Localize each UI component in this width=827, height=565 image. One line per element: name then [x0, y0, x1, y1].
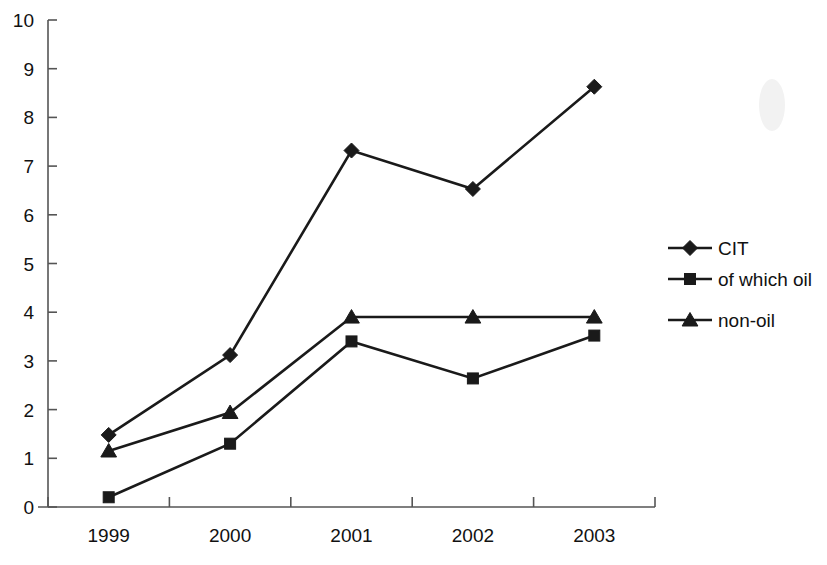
legend-item-non-oil[interactable]: non-oil — [668, 310, 775, 331]
series-of-which-oil — [103, 330, 600, 503]
data-point-marker — [101, 427, 116, 442]
y-axis-ticks: 012345678910 — [13, 10, 57, 518]
y-tick-label: 5 — [23, 254, 34, 275]
legend-label: non-oil — [718, 310, 775, 331]
x-tick-label: 2003 — [573, 525, 615, 546]
legend-item-cit[interactable]: CIT — [668, 238, 749, 259]
axis-group — [38, 20, 655, 507]
y-tick-label: 3 — [23, 351, 34, 372]
y-tick-label: 4 — [23, 302, 34, 323]
data-point-marker — [103, 492, 114, 503]
series-cit — [101, 79, 602, 442]
series-line — [109, 336, 595, 498]
data-point-marker — [225, 438, 236, 449]
x-tick-label: 2002 — [452, 525, 494, 546]
data-point-marker — [223, 348, 238, 363]
data-point-marker — [467, 373, 478, 384]
y-tick-label: 0 — [23, 497, 34, 518]
legend-marker-square-icon — [685, 274, 696, 285]
data-point-marker — [344, 143, 359, 158]
y-tick-label: 10 — [13, 10, 34, 31]
y-tick-label: 2 — [23, 400, 34, 421]
chart-legend: CITof which oilnon-oil — [668, 238, 812, 331]
x-tick-label: 2001 — [330, 525, 372, 546]
y-tick-label: 1 — [23, 448, 34, 469]
y-tick-label: 8 — [23, 107, 34, 128]
legend-label: CIT — [718, 238, 749, 259]
legend-label: of which oil — [718, 269, 812, 290]
chart-figure: 012345678910 19992000200120022003 CITof … — [0, 0, 827, 565]
data-point-marker — [589, 330, 600, 341]
scan-artifact — [759, 79, 785, 131]
x-tick-label: 1999 — [88, 525, 130, 546]
legend-marker-diamond-icon — [683, 241, 698, 256]
series-non-oil — [101, 310, 602, 457]
line-chart: 012345678910 19992000200120022003 CITof … — [0, 0, 827, 565]
series-line — [109, 87, 595, 435]
data-point-marker — [346, 336, 357, 347]
x-axis-ticks: 19992000200120022003 — [48, 497, 655, 546]
series-group — [101, 79, 602, 503]
y-tick-label: 7 — [23, 156, 34, 177]
legend-item-of-which-oil[interactable]: of which oil — [668, 269, 812, 290]
x-tick-label: 2000 — [209, 525, 251, 546]
y-tick-label: 6 — [23, 205, 34, 226]
y-tick-label: 9 — [23, 59, 34, 80]
